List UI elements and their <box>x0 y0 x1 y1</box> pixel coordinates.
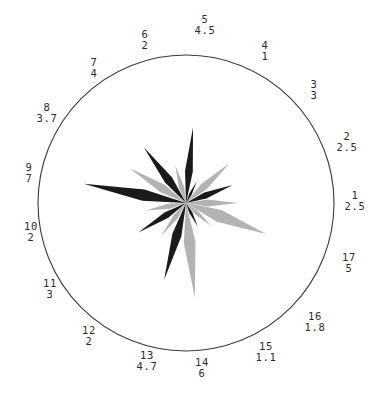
tick-value: 1.8 <box>305 322 326 333</box>
tick-label-15: 151.1 <box>256 341 277 363</box>
tick-value: 2 <box>142 40 149 51</box>
tick-label-6: 62 <box>142 29 149 51</box>
tick-label-17: 175 <box>342 252 356 274</box>
tick-label-12: 122 <box>82 325 96 347</box>
sector-ray-17 <box>186 203 266 234</box>
tick-label-14: 146 <box>195 357 209 379</box>
tick-label-4: 41 <box>262 40 269 62</box>
tick-label-9: 97 <box>26 162 33 184</box>
tick-value: 2 <box>24 232 38 243</box>
tick-value: 2.5 <box>337 142 358 153</box>
tick-label-3: 33 <box>311 79 318 101</box>
tick-label-1: 12.5 <box>345 190 366 212</box>
tick-value: 3.7 <box>37 113 58 124</box>
polar-star-plot <box>0 0 386 400</box>
tick-value: 5 <box>342 263 356 274</box>
polar-chart-page: 12.522.5334154.5627483.797102113122134.7… <box>0 0 386 400</box>
tick-value: 1.1 <box>256 352 277 363</box>
sector-ray-group <box>84 127 266 297</box>
tick-value: 3 <box>43 289 57 300</box>
tick-value: 6 <box>195 368 209 379</box>
tick-label-8: 83.7 <box>37 102 58 124</box>
tick-value: 3 <box>311 90 318 101</box>
tick-value: 7 <box>26 173 33 184</box>
tick-label-2: 22.5 <box>337 131 358 153</box>
tick-label-11: 113 <box>43 278 57 300</box>
tick-value: 4.7 <box>137 361 158 372</box>
tick-label-13: 134.7 <box>137 350 158 372</box>
tick-label-10: 102 <box>24 221 38 243</box>
tick-value: 4 <box>91 68 98 79</box>
tick-value: 1 <box>262 51 269 62</box>
tick-label-16: 161.8 <box>305 311 326 333</box>
tick-value: 2.5 <box>345 201 366 212</box>
tick-label-7: 74 <box>91 57 98 79</box>
tick-value: 2 <box>82 336 96 347</box>
tick-label-5: 54.5 <box>195 14 216 36</box>
tick-value: 4.5 <box>195 25 216 36</box>
